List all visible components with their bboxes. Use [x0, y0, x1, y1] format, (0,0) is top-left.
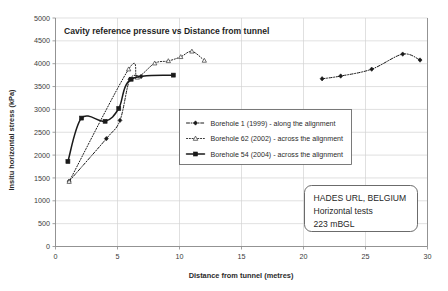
annotation-line: Horizontal tests — [314, 206, 373, 216]
data-point-marker — [80, 116, 84, 120]
legend[interactable]: Borehole 1 (1999) - along the alignmentB… — [180, 110, 352, 165]
x-tick-label: 0 — [54, 252, 58, 261]
annotation-note: HADES URL, BELGIUMHorizontal tests223 mB… — [305, 186, 418, 232]
chart-container: 0500100015002000250030003500400045005000… — [0, 0, 448, 291]
x-axis-tick-labels: 051015202530 — [54, 252, 432, 261]
y-axis-tick-labels: 0500100015002000250030003500400045005000 — [34, 14, 50, 252]
data-point-marker — [129, 77, 133, 81]
y-tick-label: 2000 — [34, 151, 50, 160]
y-tick-label: 4500 — [34, 36, 50, 45]
y-tick-label: 2500 — [34, 128, 50, 137]
annotation-line: HADES URL, BELGIUM — [314, 193, 407, 203]
chart-title: Cavity reference pressure vs Distance fr… — [64, 26, 269, 36]
legend-item[interactable]: Borehole 62 (2002) - across the alignmen… — [187, 135, 344, 143]
x-tick-label: 20 — [300, 252, 308, 261]
x-tick-label: 5 — [116, 252, 120, 261]
y-tick-label: 5000 — [34, 14, 50, 23]
series-line — [322, 54, 420, 79]
data-point-marker — [117, 106, 121, 110]
series-line — [69, 75, 141, 181]
data-point-marker — [202, 58, 206, 62]
data-point-marker — [153, 61, 157, 65]
data-point-marker — [418, 58, 422, 62]
y-tick-label: 3000 — [34, 105, 50, 114]
legend-item[interactable]: Borehole 54 (2004) - across the alignmen… — [187, 151, 344, 159]
legend-marker-swatch — [194, 152, 198, 156]
legend-label: Borehole 1 (1999) - along the alignment — [211, 120, 336, 128]
data-point-marker — [103, 119, 107, 123]
data-point-marker — [166, 59, 170, 63]
x-tick-label: 10 — [176, 252, 184, 261]
y-tick-label: 1000 — [34, 196, 50, 205]
data-point-marker — [339, 74, 343, 78]
data-point-marker — [190, 49, 194, 53]
x-tick-label: 15 — [238, 252, 246, 261]
legend-label: Borehole 54 (2004) - across the alignmen… — [211, 151, 344, 159]
data-point-marker — [118, 118, 122, 122]
y-tick-label: 4000 — [34, 59, 50, 68]
y-tick-label: 1500 — [34, 174, 50, 183]
y-tick-label: 3500 — [34, 82, 50, 91]
legend-label: Borehole 62 (2002) - across the alignmen… — [211, 135, 344, 143]
y-tick-label: 500 — [38, 219, 50, 228]
y-axis-title: Insitu horizontal stress (kPa) — [7, 89, 16, 191]
chart-svg: 0500100015002000250030003500400045005000… — [0, 0, 448, 291]
x-tick-label: 25 — [362, 252, 370, 261]
data-point-marker — [370, 67, 374, 71]
data-point-marker — [171, 73, 175, 77]
x-tick-label: 30 — [424, 252, 432, 261]
y-tick-label: 0 — [46, 242, 50, 251]
data-point-marker — [320, 77, 324, 81]
annotation-line: 223 mBGL — [314, 219, 355, 229]
x-axis-title: Distance from tunnel (metres) — [189, 271, 294, 280]
data-point-marker — [401, 52, 405, 56]
data-point-marker — [66, 159, 70, 163]
